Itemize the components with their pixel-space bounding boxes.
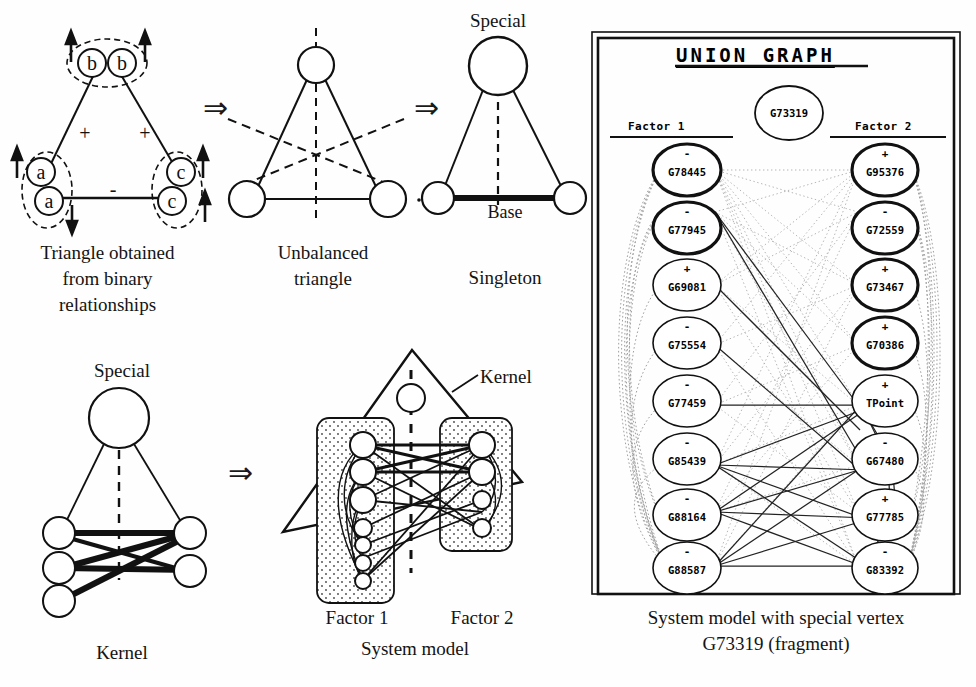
node-sign: - (684, 492, 691, 505)
singleton-special-label: Special (448, 8, 548, 33)
node-label: G73467 (866, 281, 904, 293)
panel-unbalanced-triangle (228, 28, 406, 222)
node-label: G69081 (668, 281, 706, 293)
vertex-label: c (177, 161, 186, 183)
caption-singleton: Singleton (440, 265, 570, 290)
node-label: G95376 (866, 166, 904, 178)
node-label: G77945 (668, 224, 706, 236)
special-vertex (469, 37, 527, 95)
node-label: G77785 (866, 511, 904, 523)
node-sign: - (882, 205, 889, 218)
node-label: G72559 (866, 224, 904, 236)
union-factor2-header: Factor 2 (855, 120, 912, 133)
caption-kernel: Kernel (62, 640, 182, 665)
transform-arrow-icon: ⇒ (228, 458, 253, 488)
node-label: G85439 (668, 455, 706, 467)
node-sign: + (882, 320, 889, 333)
caption-union-graph: System model with special vertex G73319 … (600, 605, 952, 657)
union-factor1-nodes: - G78445 - G77945 + G69081 - G75554 - G7… (653, 144, 721, 594)
vertex-label: a (37, 161, 46, 183)
system-model-factor1-label: Factor 1 (312, 605, 402, 630)
node-sign: - (684, 320, 691, 333)
node-sign: + (882, 378, 889, 391)
node-sign: + (882, 262, 889, 275)
node-sign: + (882, 492, 889, 505)
node-sign: - (882, 545, 889, 558)
vertex-label: a (45, 190, 54, 212)
panel-kernel (43, 388, 206, 617)
union-factor1-header: Factor 1 (628, 120, 685, 133)
caption-line: Triangle obtained (0, 240, 215, 266)
kernel-special-label: Special (72, 358, 172, 383)
node-label: G67480 (866, 455, 904, 467)
node-label: G83392 (866, 564, 904, 576)
node-label: G70386 (866, 339, 904, 351)
caption-unbalanced-triangle: Unbalanced triangle (248, 240, 398, 292)
system-model-factor2-label: Factor 2 (437, 605, 527, 630)
caption-line: G73319 (fragment) (600, 631, 952, 657)
singleton-base-label: Base (470, 200, 540, 225)
edge-sign: + (139, 122, 150, 144)
union-node-center-label: G73319 (770, 107, 808, 119)
node-label: G88587 (668, 564, 706, 576)
node-sign: + (882, 147, 889, 160)
vertex-label: b (117, 52, 127, 74)
caption-line: triangle (248, 266, 398, 292)
caption-system-model: System model (330, 636, 500, 661)
caption-line: relationships (0, 292, 215, 318)
node-sign: - (684, 545, 691, 558)
node-sign: - (684, 436, 691, 449)
caption-line: from binary (0, 266, 215, 292)
node-label: G78445 (668, 166, 706, 178)
transform-arrow-icon: ⇒ (414, 93, 439, 123)
caption-line: System model with special vertex (600, 605, 952, 631)
union-factor2-nodes: + G95376 - G72559 + G73467 + G70386 + TP… (852, 144, 918, 594)
caption-line: Unbalanced (248, 240, 398, 266)
special-vertex (89, 388, 149, 448)
union-graph-nodes: G73319 - G78445 - G77945 + G69081 - G755… (653, 86, 918, 594)
node-label: TPoint (866, 397, 904, 409)
figure-artwork: b b a a c c + + - (0, 0, 976, 687)
node-sign: - (684, 147, 691, 160)
node-sign: - (684, 378, 691, 391)
node-sign: - (882, 436, 889, 449)
edge-sign: - (110, 178, 117, 200)
node-label: G75554 (668, 339, 706, 351)
node-sign: - (684, 205, 691, 218)
node-label: G88164 (668, 511, 706, 523)
vertex-label: c (168, 190, 177, 212)
node-sign: + (684, 262, 691, 275)
system-model-kernel-label: Kernel (480, 364, 570, 389)
transform-arrow-icon: ⇒ (203, 93, 228, 123)
node-label: G77459 (668, 397, 706, 409)
union-graph-title: UNION GRAPH (676, 44, 835, 66)
caption-triangle-binary: Triangle obtained from binary relationsh… (0, 240, 215, 318)
edge-sign: + (79, 122, 90, 144)
panel-singleton (417, 37, 586, 214)
vertex-label: b (87, 52, 97, 74)
figure-stage: b b a a c c + + - (0, 0, 976, 687)
panel-triangle-binary: b b a a c c + + - (12, 31, 210, 234)
